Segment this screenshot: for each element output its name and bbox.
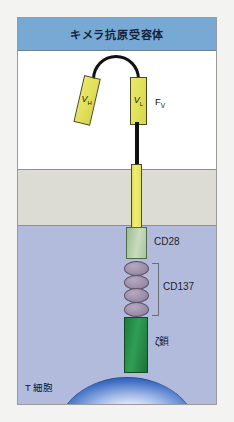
cell-membrane-region: [18, 169, 216, 226]
cd137-domain-unit: [124, 302, 149, 317]
cd137-domain-unit: [124, 288, 149, 303]
zeta-chain-domain: [124, 317, 148, 373]
page-title: キメラ抗原受容体: [70, 26, 164, 42]
hinge-transmembrane-stalk: [131, 164, 142, 228]
cd137-label: CD137: [163, 281, 194, 292]
vh-domain-label: VH: [82, 95, 92, 106]
cd28-label: CD28: [154, 236, 180, 247]
vl-domain: VL: [130, 77, 147, 125]
header-bar: キメラ抗原受容体: [18, 18, 216, 51]
diagram-frame: キメラ抗原受容体 VH VL FV CD28 CD137 ζ鎖 T 細胞: [17, 17, 217, 405]
cd137-domain-unit: [124, 261, 149, 276]
zeta-chain-label: ζ鎖: [155, 333, 169, 348]
linker-stem: [135, 122, 139, 166]
cd137-bracket: [152, 263, 159, 316]
cd28-domain: [126, 227, 147, 259]
fv-label: FV: [155, 96, 165, 109]
cd137-domain-group: [124, 261, 149, 317]
vl-domain-label: VL: [134, 96, 143, 107]
t-cell-label: T 細胞: [25, 380, 53, 394]
